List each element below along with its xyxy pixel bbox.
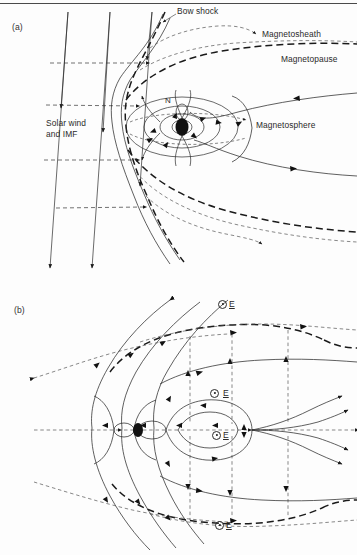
- solar-wind-imf-label: Solar wind and IMF: [46, 118, 86, 139]
- earth-body-panel-b: [133, 423, 143, 437]
- efield-label-3: E: [212, 430, 229, 440]
- convection-streamlines-b: [34, 324, 357, 527]
- efield-vector-symbol: E: [225, 520, 232, 530]
- magnetopause-boundary: [125, 12, 357, 262]
- efield-label-2: E: [210, 388, 229, 398]
- circle-dot-icon: [212, 431, 221, 440]
- efield-vector-symbol: E: [228, 299, 235, 309]
- panel-a-label: (a): [12, 22, 23, 33]
- efield-vector-symbol: E: [222, 430, 229, 440]
- panel-a-graphics: [44, 12, 357, 268]
- flow-direction-arrows-b: [93, 339, 218, 523]
- magnetosphere-figure: (a) Bow shock Magnetosheath Magnetopause…: [0, 0, 357, 555]
- earth-body-panel-a: [176, 118, 189, 136]
- efield-label-4: E: [215, 520, 232, 530]
- circle-dot-icon: [218, 300, 227, 309]
- bow-shock-surface: [111, 14, 180, 264]
- figure-canvas: [0, 0, 357, 555]
- magnetopause-label: Magnetopause: [281, 54, 338, 65]
- panel-b-label: (b): [14, 305, 25, 316]
- magnetosheath-label: Magnetosheath: [262, 29, 321, 40]
- bow-shock-label: Bow shock: [177, 6, 218, 17]
- magnetosphere-label: Magnetosphere: [256, 120, 316, 131]
- imf-field-lines: [50, 12, 152, 268]
- circle-dot-icon: [210, 389, 219, 398]
- label-leader-lines: [163, 14, 176, 22]
- panel-b-graphics: [34, 300, 357, 550]
- circle-dot-icon: [215, 521, 224, 530]
- efield-vector-symbol: E: [220, 388, 229, 398]
- magnetotail-field-lines: [190, 93, 357, 176]
- north-pole-label: N: [165, 96, 171, 106]
- efield-label-1: E: [218, 299, 235, 309]
